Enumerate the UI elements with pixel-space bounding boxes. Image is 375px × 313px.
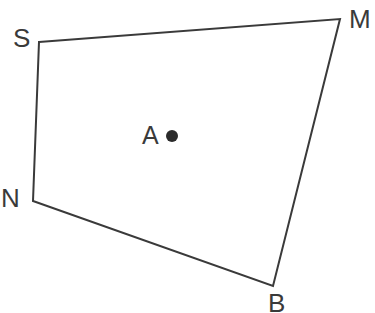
quadrilateral-drawing [0,0,375,313]
vertex-label-m: M [349,6,371,32]
geometry-figure: S M B N A [0,0,375,313]
quadrilateral-smbn [33,19,340,286]
interior-point-label-a: A [142,123,159,148]
vertex-label-n: N [1,185,20,211]
interior-point-a-dot [166,130,178,142]
vertex-label-b: B [268,290,285,313]
vertex-label-s: S [13,25,30,51]
